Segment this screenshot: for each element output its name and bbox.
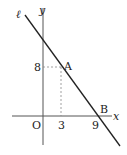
- point-a-label: A: [63, 60, 73, 73]
- tick-y-8: 8: [34, 61, 41, 74]
- y-axis-label: y: [38, 4, 46, 17]
- tick-x-3: 3: [58, 119, 65, 132]
- tick-x-9: 9: [92, 119, 99, 132]
- origin-label: O: [32, 119, 41, 132]
- line-l-label: ℓ: [16, 8, 21, 21]
- coordinate-diagram: ℓ y x O A B 3 9 8: [0, 0, 127, 155]
- point-b-label: B: [100, 103, 108, 116]
- x-axis-label: x: [113, 110, 120, 123]
